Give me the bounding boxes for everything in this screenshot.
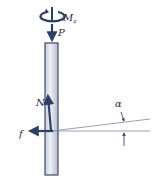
normal-force-label: N bbox=[35, 97, 46, 108]
post bbox=[45, 43, 58, 175]
axial-load-label: P bbox=[57, 27, 65, 38]
angle-arrow-top bbox=[121, 112, 124, 121]
free-body-diagram: Mz P N f α bbox=[0, 0, 154, 183]
tilted-line bbox=[52, 119, 150, 131]
angle-label: α bbox=[115, 98, 122, 109]
moment-icon bbox=[41, 7, 65, 22]
moment-label: Mz bbox=[62, 12, 77, 24]
friction-label: f bbox=[18, 128, 25, 139]
